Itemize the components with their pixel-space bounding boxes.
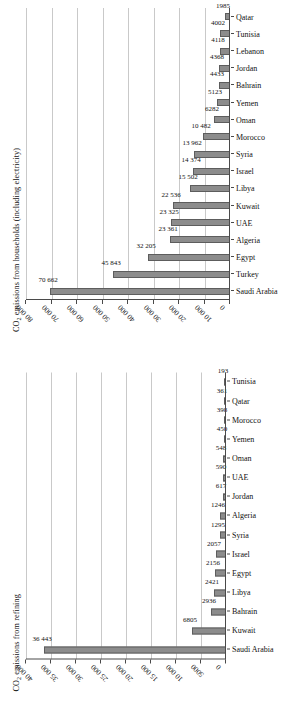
tick-mark (231, 222, 234, 223)
bar-item: 2936 (26, 602, 226, 621)
bar-series-households: 70 66245 84332 20523 36123 32522 53615 5… (26, 8, 230, 300)
bar-item: 10 482 (26, 128, 230, 145)
axis-tick (125, 659, 126, 663)
category-label: UAE (232, 473, 248, 482)
category-tick: Qatar (231, 8, 291, 25)
bar-item: 4118 (26, 42, 230, 59)
bar-item: 70 662 (26, 283, 230, 300)
category-tick: Oman (231, 111, 291, 128)
bar-item: 193 (26, 372, 226, 391)
chart-households: CO2 emissions from households (including… (0, 0, 292, 362)
category-tick: Tunisia (231, 25, 291, 42)
bar-value-label: 22 536 (161, 198, 180, 206)
chart-page: CO2 emissions from households (including… (0, 0, 292, 725)
tick-mark (231, 84, 234, 85)
axis-tick (229, 300, 230, 304)
category-label: Algeria (232, 511, 256, 520)
bar-item: 1295 (26, 525, 226, 544)
category-label: Lebanon (236, 47, 264, 56)
bar (171, 219, 230, 226)
bar-value-label: 14 374 (182, 163, 201, 171)
bar-item: 32 205 (26, 248, 230, 265)
category-tick: Jordan (231, 60, 291, 77)
bar-item: 5123 (26, 94, 230, 111)
category-axis-line (229, 8, 230, 300)
axis-tick-label: 10 000 (164, 662, 185, 683)
category-tick: Yemen (231, 94, 291, 111)
category-tick: Qatar (227, 391, 291, 410)
axis-tick-label: 50 000 (90, 303, 111, 324)
category-label: Bahrain (236, 81, 261, 90)
category-tick: Syria (231, 145, 291, 162)
tick-mark (227, 534, 230, 535)
category-label: Turkey (236, 270, 259, 279)
category-label: Israel (232, 549, 250, 558)
category-tick: Bahrain (231, 77, 291, 94)
bar-value-label: 1985 (216, 9, 230, 17)
axis-tick (153, 300, 154, 304)
category-label: Tunisia (232, 377, 256, 386)
axis-tick-label: 30 000 (141, 303, 162, 324)
category-tick: Algeria (231, 231, 291, 248)
tick-mark (231, 136, 234, 137)
chart-refining: CO2 emissions from refining 36 443680529… (0, 362, 292, 725)
category-label: Tunisia (236, 29, 260, 38)
bar-value-label: 2156 (206, 565, 220, 573)
axis-tick-label: 70 000 (39, 303, 60, 324)
axis-tick (150, 659, 151, 663)
category-label: Libya (232, 588, 251, 597)
category-label: Morocco (236, 132, 265, 141)
chart-title-rest: emissions from households (including ele… (12, 148, 21, 317)
category-label: Jordan (232, 492, 253, 501)
bar-item: 2057 (26, 544, 226, 563)
tick-mark (231, 16, 234, 17)
category-label: Kuwait (236, 201, 260, 210)
category-label: Jordan (236, 64, 257, 73)
category-tick: Saudi Arabia (227, 640, 291, 659)
tick-mark (227, 419, 230, 420)
bar-item: 617 (26, 487, 226, 506)
bar-item: 13 962 (26, 145, 230, 162)
category-tick: Morocco (231, 128, 291, 145)
tick-mark (231, 256, 234, 257)
axis-tick (225, 659, 226, 663)
category-tick: Morocco (227, 410, 291, 429)
category-label: Syria (236, 150, 253, 159)
tick-mark (227, 514, 230, 515)
axis-tick-label: 0 (214, 662, 223, 671)
tick-mark (227, 648, 230, 649)
bar-value-label: 23 325 (159, 215, 178, 223)
axis-tick (75, 659, 76, 663)
bar-item: 1985 (26, 8, 230, 25)
category-tick: Egypt (227, 563, 291, 582)
value-axis-refining: 0500010 00015 00020 00025 00030 00035 00… (26, 658, 226, 659)
bar-value-label: 45 843 (101, 266, 120, 274)
plot-area-refining: 36 4436805293624212156205712951246617590… (26, 372, 226, 659)
category-tick: Yemen (227, 429, 291, 448)
category-label: Oman (236, 115, 256, 124)
chart-panel-refining: CO2 emissions from refining 36 443680529… (0, 362, 292, 725)
category-tick: Syria (227, 525, 291, 544)
category-tick: Algeria (227, 506, 291, 525)
category-label: Kuwait (232, 626, 256, 635)
category-label: Qatar (236, 12, 254, 21)
bar-value-label: 70 662 (38, 283, 57, 291)
tick-mark (231, 102, 234, 103)
category-label: Egypt (232, 568, 251, 577)
axis-tick-label: 35 000 (39, 662, 60, 683)
category-label: Egypt (236, 253, 255, 262)
axis-tick (25, 300, 26, 304)
category-tick: Turkey (231, 266, 291, 283)
tick-mark (231, 205, 234, 206)
bar-value-label: 6282 (205, 112, 219, 120)
category-label: Morocco (232, 415, 261, 424)
axis-tick (204, 300, 205, 304)
bar-value-label: 13 962 (183, 146, 202, 154)
axis-tick (127, 300, 128, 304)
category-tick: Israel (231, 163, 291, 180)
bar-value-label: 2421 (205, 584, 219, 592)
bar-value-label: 4368 (210, 60, 224, 68)
axis-tick (178, 300, 179, 304)
axis-tick (175, 659, 176, 663)
axis-tick-label: 20 000 (114, 662, 135, 683)
